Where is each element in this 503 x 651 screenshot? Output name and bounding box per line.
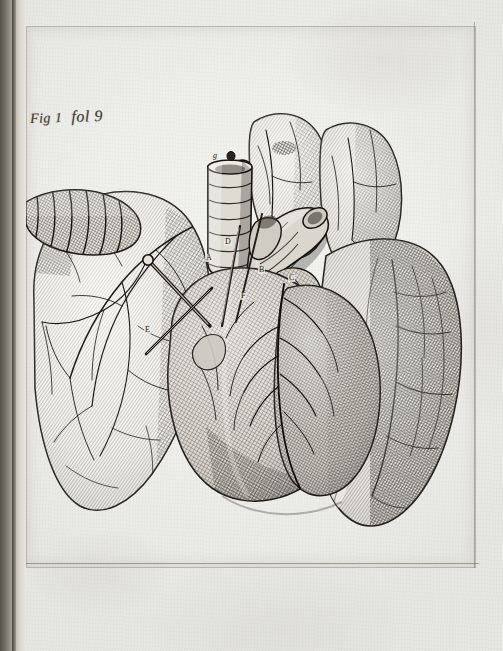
- label-F: F: [240, 292, 246, 300]
- folio-reference-text: fol 9: [71, 107, 103, 125]
- label-C: C: [288, 274, 295, 282]
- binding-gutter-edge: [12, 0, 16, 651]
- handwritten-inscription: Fig 1fol 9: [30, 107, 103, 127]
- figure-label-text: Fig 1: [30, 110, 63, 126]
- label-E: E: [144, 326, 151, 334]
- faint-top-mark: [172, 80, 206, 96]
- label-D: D: [224, 238, 232, 246]
- plate-mark-right-line: [474, 22, 475, 568]
- label-g: g: [212, 152, 218, 160]
- trachea-group: [208, 152, 252, 279]
- label-A: A: [205, 254, 213, 262]
- scanned-page: g A B C D E F Fig 1fol 9: [0, 0, 503, 651]
- label-B: B: [258, 266, 265, 274]
